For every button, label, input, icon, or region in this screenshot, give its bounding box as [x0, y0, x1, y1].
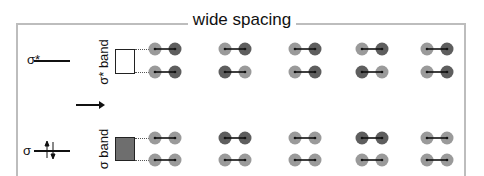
- dimer: [421, 43, 454, 56]
- dimer: [289, 43, 322, 56]
- dimer-array: [0, 0, 484, 176]
- dimer: [289, 132, 322, 145]
- dimer: [289, 66, 322, 79]
- dimer: [219, 43, 252, 56]
- dimer: [219, 132, 252, 145]
- dimer: [149, 132, 182, 145]
- dimer: [149, 154, 182, 167]
- dimer: [421, 154, 454, 167]
- dimer: [356, 43, 389, 56]
- dimer: [219, 154, 252, 167]
- dimer: [421, 66, 454, 79]
- dimer: [149, 66, 182, 79]
- dimer: [421, 132, 454, 145]
- dimer: [149, 43, 182, 56]
- dimer: [219, 66, 252, 79]
- dimer: [356, 132, 389, 145]
- dimer: [356, 154, 389, 167]
- dimer: [289, 154, 322, 167]
- dimer: [356, 66, 389, 79]
